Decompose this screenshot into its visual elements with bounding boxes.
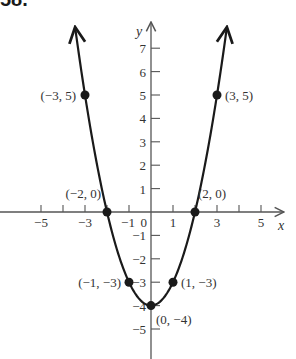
y-tick-label: 2: [140, 158, 147, 173]
data-point: [191, 208, 200, 217]
data-point: [169, 278, 178, 287]
y-tick-label: 1: [140, 182, 147, 197]
data-point: [103, 208, 112, 217]
data-point: [81, 91, 90, 100]
y-tick-label: 5: [140, 88, 147, 103]
point-label: (−3, 5): [41, 88, 77, 103]
y-tick-label: 7: [140, 41, 147, 56]
x-tick-label: 1: [170, 215, 177, 230]
y-tick-label: 4: [140, 111, 147, 126]
parabola-graph: xy −5−3−101357654321−1−2−3−4−5 (−3, 5)(−…: [0, 0, 296, 359]
data-point: [147, 301, 156, 310]
point-label: (0, −4): [156, 312, 192, 327]
labeled-points: (−3, 5)(−2, 0)(−1, −3)(0, −4)(1, −3)(2, …: [41, 88, 254, 327]
y-tick-label: −2: [132, 252, 146, 267]
point-label: (1, −3): [181, 275, 217, 290]
point-label: (2, 0): [198, 186, 226, 201]
point-label: (−1, −3): [78, 275, 121, 290]
y-tick-label: −4: [132, 299, 146, 314]
point-label: (−2, 0): [66, 186, 102, 201]
y-tick-label: −5: [132, 322, 146, 337]
y-axis-label: y: [134, 24, 143, 39]
x-axis-label: x: [277, 218, 285, 233]
data-point: [213, 91, 222, 100]
point-label: (3, 5): [225, 88, 253, 103]
y-tick-label: 3: [140, 135, 147, 150]
y-tick-label: −3: [132, 275, 146, 290]
x-tick-label: −5: [34, 215, 48, 230]
data-point: [125, 278, 134, 287]
x-tick-label: −3: [78, 215, 92, 230]
y-tick-label: −1: [132, 228, 146, 243]
y-tick-label: 6: [140, 65, 147, 80]
x-tick-label: 3: [214, 215, 221, 230]
x-tick-label: 5: [258, 215, 265, 230]
